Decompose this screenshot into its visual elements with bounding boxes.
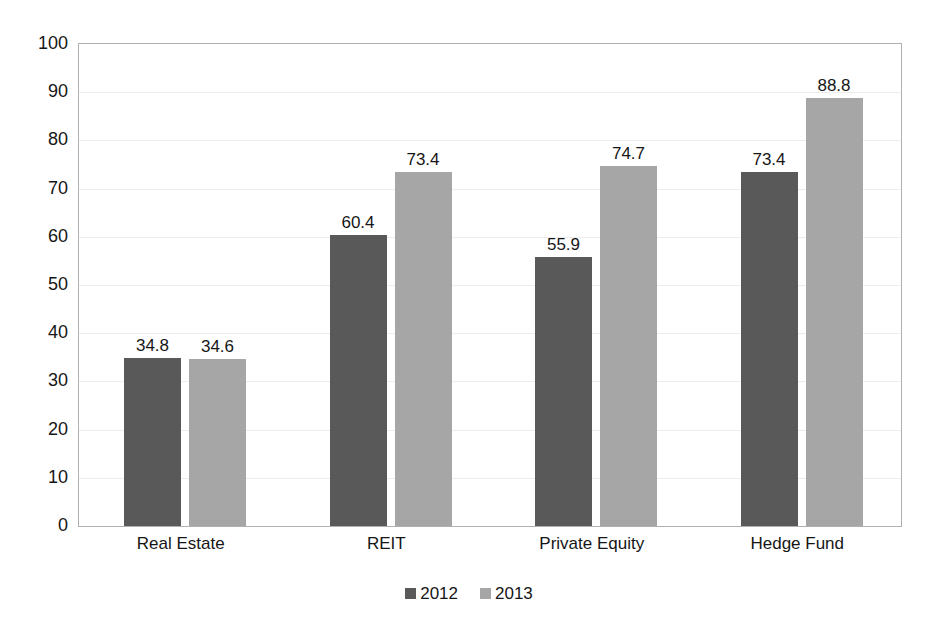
legend-label: 2012 <box>420 585 458 602</box>
x-axis: Real EstateREITPrivate EquityHedge Fund <box>78 535 902 565</box>
bar-group: 73.488.8 <box>696 44 902 526</box>
bar-2013-private-equity: 74.7 <box>600 166 657 526</box>
bar-value-label: 73.4 <box>752 151 785 168</box>
bar-2012-private-equity: 55.9 <box>535 257 592 526</box>
y-axis-tick-label: 60 <box>48 227 68 245</box>
bar-value-label: 74.7 <box>612 145 645 162</box>
y-axis-tick-label: 10 <box>48 468 68 486</box>
bar-value-label: 60.4 <box>341 214 374 231</box>
bar-value-label: 34.8 <box>136 337 169 354</box>
bar-2012-real-estate: 34.8 <box>124 358 181 526</box>
x-axis-tick-label: Real Estate <box>137 535 225 552</box>
legend-item-2012[interactable]: 2012 <box>405 585 458 602</box>
x-axis-tick-label: Private Equity <box>539 535 644 552</box>
chart-legend: 20122013 <box>0 585 938 602</box>
bar-2013-hedge-fund: 88.8 <box>806 98 863 526</box>
bar-chart: 0102030405060708090100 34.834.660.473.45… <box>0 0 938 637</box>
bar-value-label: 88.8 <box>817 77 850 94</box>
bar-2012-hedge-fund: 73.4 <box>741 172 798 526</box>
x-axis-tick-label: REIT <box>367 535 406 552</box>
bar-group: 55.974.7 <box>490 44 696 526</box>
y-axis-tick-label: 70 <box>48 179 68 197</box>
bar-value-label: 34.6 <box>201 338 234 355</box>
y-axis-tick-label: 90 <box>48 82 68 100</box>
bar-group: 34.834.6 <box>79 44 285 526</box>
bar-2013-real-estate: 34.6 <box>189 359 246 526</box>
legend-item-2013[interactable]: 2013 <box>480 585 533 602</box>
bar-value-label: 73.4 <box>406 151 439 168</box>
bar-group: 60.473.4 <box>285 44 491 526</box>
bar-value-label: 55.9 <box>547 236 580 253</box>
legend-swatch-icon <box>405 588 416 599</box>
bars-layer: 34.834.660.473.455.974.773.488.8 <box>79 44 901 526</box>
y-axis-tick-label: 40 <box>48 323 68 341</box>
plot-area: 34.834.660.473.455.974.773.488.8 <box>78 43 902 527</box>
y-axis-tick-label: 30 <box>48 371 68 389</box>
y-axis: 0102030405060708090100 <box>0 43 68 527</box>
y-axis-tick-label: 100 <box>38 34 68 52</box>
y-axis-tick-label: 20 <box>48 420 68 438</box>
bar-2012-reit: 60.4 <box>330 235 387 526</box>
legend-swatch-icon <box>480 588 491 599</box>
y-axis-tick-label: 0 <box>58 516 68 534</box>
y-axis-tick-label: 50 <box>48 275 68 293</box>
y-axis-tick-label: 80 <box>48 130 68 148</box>
bar-2013-reit: 73.4 <box>395 172 452 526</box>
legend-label: 2013 <box>495 585 533 602</box>
x-axis-tick-label: Hedge Fund <box>750 535 844 552</box>
